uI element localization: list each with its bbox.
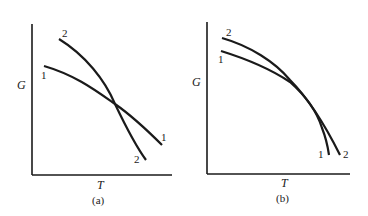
y-axis-label: G (17, 78, 26, 92)
curve-1-end-label: 1 (161, 131, 167, 143)
curve-1-end-label: 1 (318, 148, 324, 160)
curve-2 (59, 39, 146, 160)
x-axis-label: T (97, 178, 105, 192)
panel-b: 2 1 1 2 G T (b) (192, 22, 350, 205)
y-axis-label: G (192, 75, 201, 89)
curve-2 (222, 38, 340, 155)
curve-1-start-label: 1 (41, 69, 47, 81)
x-axis-label: T (281, 176, 289, 190)
panel-caption: (a) (92, 194, 105, 207)
curve-1 (44, 66, 162, 145)
curve-2-start-label: 2 (62, 27, 68, 39)
panel-a: 2 1 1 2 G T (a) (17, 24, 172, 207)
curve-2-start-label: 2 (226, 26, 232, 38)
curve-2-end-label: 2 (343, 148, 349, 160)
diagram-canvas: 2 1 1 2 G T (a) 2 1 1 2 G T (b) (0, 0, 368, 216)
curve-1-start-label: 1 (218, 53, 224, 65)
curve-2-end-label: 2 (134, 153, 140, 165)
panel-caption: (b) (276, 192, 289, 205)
